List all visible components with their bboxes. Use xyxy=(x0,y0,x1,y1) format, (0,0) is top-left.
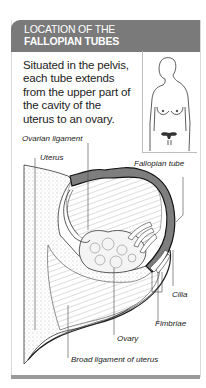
label-cilia: Cilia xyxy=(172,290,188,299)
label-fimbriae: Fimbriae xyxy=(155,319,186,328)
fallopian-tube-diagram xyxy=(0,0,206,388)
label-ovary: Ovary xyxy=(117,334,138,343)
label-uterus: Uterus xyxy=(40,153,64,162)
label-ovarian-ligament: Ovarian ligament xyxy=(22,134,82,143)
label-broad-ligament: Broad ligament of uterus xyxy=(71,355,158,364)
label-fallopian-tube: Fallopian tube xyxy=(134,159,184,168)
panel-bottom-border xyxy=(11,375,200,379)
